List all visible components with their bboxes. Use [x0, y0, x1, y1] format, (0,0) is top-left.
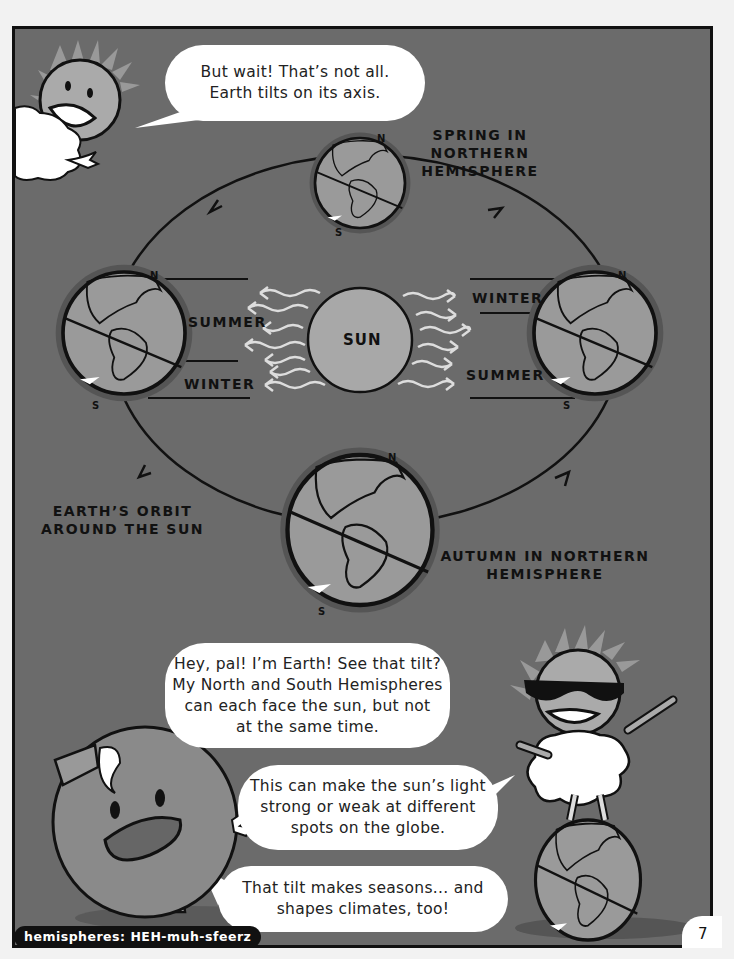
- orbit-arrow-icon: [139, 465, 151, 477]
- right-summer-label: SUMMER: [466, 366, 545, 384]
- bubble-text: strong or weak at different: [250, 797, 486, 818]
- speech-bubble-sun-light: This can make the sun’s light strong or …: [238, 765, 498, 850]
- sun-label: SUN: [343, 331, 382, 349]
- bubble-text: But wait! That’s not all.: [201, 62, 390, 83]
- left-summer-label: SUMMER: [188, 313, 267, 331]
- spring-label: SPRING INNORTHERNHEMISPHERE: [412, 126, 548, 180]
- bubble-text: shapes climates, too!: [242, 899, 484, 920]
- bubble-text: My North and South Hemispheres: [172, 675, 442, 696]
- pronunciation-tag: hemispheres: HEH-muh-sfeerz: [14, 926, 261, 948]
- bubble-text: can each face the sun, but not: [172, 696, 442, 717]
- north-marker: N: [388, 452, 396, 463]
- bubble-text: That tilt makes seasons... and: [242, 878, 484, 899]
- orbit-label: EARTH’S ORBITAROUND THE SUN: [40, 502, 205, 538]
- globe-top: [310, 133, 411, 234]
- orbit-arrow-icon: [555, 472, 569, 486]
- south-marker: S: [92, 400, 99, 411]
- north-marker: N: [150, 270, 158, 281]
- sun-character-bottom: [510, 625, 695, 940]
- speech-bubble-seasons: That tilt makes seasons... and shapes cl…: [218, 866, 508, 932]
- bubble-text: Hey, pal! I’m Earth! See that tilt?: [172, 654, 442, 675]
- south-marker: S: [335, 227, 342, 238]
- globe-right: [527, 265, 664, 402]
- globe-bottom: [280, 448, 440, 613]
- left-winter-label: WINTER: [184, 375, 255, 393]
- orbit-arrow-icon: [210, 200, 222, 212]
- orbit-arrow-icon: [488, 208, 502, 218]
- north-marker: N: [377, 133, 385, 144]
- south-marker: S: [318, 606, 325, 617]
- bubble-text: spots on the globe.: [250, 818, 486, 839]
- bubble-text: Earth tilts on its axis.: [201, 83, 390, 104]
- north-marker: N: [618, 270, 626, 281]
- south-marker: S: [563, 400, 570, 411]
- bubble-text: This can make the sun’s light: [250, 776, 486, 797]
- autumn-label: AUTUMN IN NORTHERNHEMISPHERE: [440, 547, 650, 583]
- sun-character-top: [15, 40, 140, 180]
- bubble-text: at the same time.: [172, 717, 442, 738]
- speech-bubble-top: But wait! That’s not all.Earth tilts on …: [165, 45, 425, 121]
- speech-bubble-earth-intro: Hey, pal! I’m Earth! See that tilt? My N…: [165, 643, 450, 748]
- globe-left: [56, 265, 193, 402]
- right-winter-label: WINTER: [472, 289, 543, 307]
- page-number: 7: [682, 916, 722, 948]
